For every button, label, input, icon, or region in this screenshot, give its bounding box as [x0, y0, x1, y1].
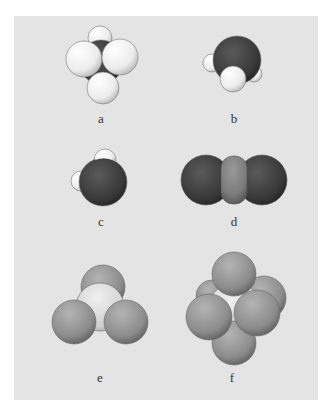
label-e: e	[97, 370, 103, 386]
label-b: b	[231, 111, 238, 127]
molecule-a	[66, 26, 138, 104]
label-d: d	[231, 214, 238, 230]
label-f: f	[230, 370, 234, 386]
label-a: a	[98, 111, 104, 127]
molecule-b	[203, 36, 262, 92]
molecule-diagram	[0, 0, 333, 410]
molecule-d	[181, 155, 287, 205]
molecule-e	[52, 265, 148, 344]
molecule-c	[71, 149, 127, 206]
molecule-f	[186, 252, 286, 365]
label-c: c	[98, 214, 104, 230]
